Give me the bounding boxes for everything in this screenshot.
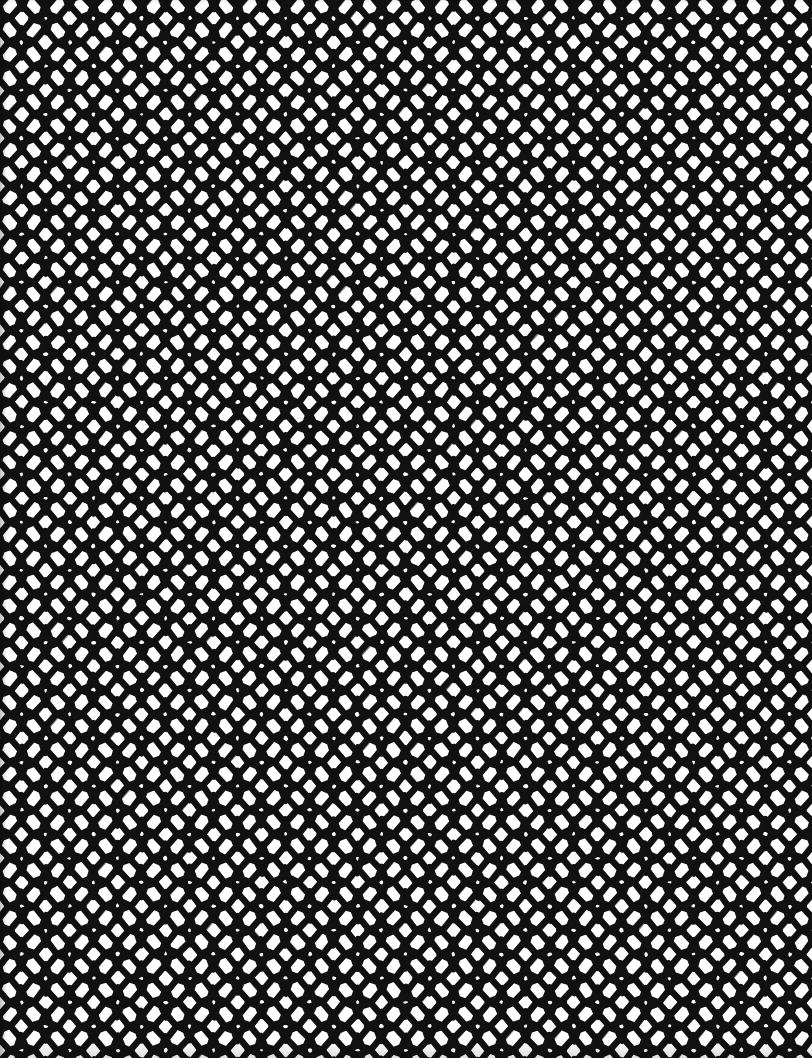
geometric-lattice-pattern	[0, 0, 812, 1058]
pattern-artboard	[0, 0, 812, 1058]
